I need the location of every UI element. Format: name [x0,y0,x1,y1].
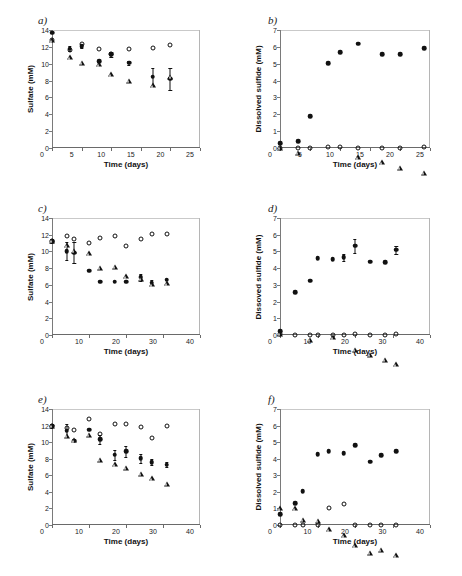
data-point-open-circle [87,240,92,245]
data-point-filled [341,255,346,260]
plot-frame-top-e [52,409,200,410]
data-point-open-circle [326,145,331,150]
plot-frame-right-c [199,218,200,335]
data-point-open-triangle [352,543,358,548]
x-tick-label-e-10: 10 [69,528,89,535]
data-point-open-circle [293,522,298,527]
y-tick-label-a-8: 8 [45,77,49,84]
y-tick-label-e-2: 2 [45,505,49,512]
x-tick-label-c-20: 20 [106,338,126,345]
y-axis-title-f: Dissolved sulfide (mM) [254,380,263,467]
x-tick-e-30 [163,525,164,528]
y-tick-label-a-6: 6 [45,94,49,101]
y-tick-b-4 [277,81,280,82]
data-point-open-triangle [367,352,373,357]
data-point-open-triangle [64,433,70,438]
error-bar-cap [124,446,127,447]
y-tick-a-12 [49,47,52,48]
y-tick-label-d-3: 3 [273,281,277,288]
data-point-open-circle [368,522,373,527]
data-point-open-circle [64,425,69,430]
data-point-open-triangle [382,357,388,362]
y-tick-e-8 [49,459,52,460]
data-point-open-circle [112,233,117,238]
error-bar-cap [72,263,75,264]
error-bar-cap [342,261,345,262]
error-bar-cap [98,444,101,445]
x-tick-c-10 [89,335,90,338]
data-point-open-triangle [352,347,358,352]
data-point-open-triangle [112,264,118,269]
y-tick-d-1 [277,318,280,319]
y-axis-title-c: Sulfate (mM) [26,229,35,277]
panel-e: e)02468101214010203040Time (days)Sulfate… [0,383,231,573]
x-tick-label-a-15: 15 [121,151,141,158]
y-tick-label-f-2: 2 [273,488,277,495]
x-tick-label-f-40: 40 [410,528,430,535]
data-point-open-triangle [307,337,313,342]
data-point-filled [139,456,144,461]
y-tick-a-2 [49,131,52,132]
y-tick-e-6 [49,475,52,476]
data-point-filled [422,46,427,51]
x-tick-b-15 [370,148,371,151]
error-bar-cap [124,457,127,458]
error-bar-cap [150,465,153,466]
x-tick-label-a-0: 0 [32,151,52,158]
data-point-filled [315,256,320,261]
x-axis-title-b: Time (days) [280,160,430,169]
y-axis-title-b: Dissolved sulfide (mM) [254,2,263,89]
y-axis-title-e: Sulfate (mM) [26,419,35,467]
data-point-open-circle [398,145,403,150]
data-point-filled [300,489,305,494]
y-tick-d-6 [277,235,280,236]
x-tick-label-a-20: 20 [150,151,170,158]
x-tick-a-15 [141,148,142,151]
y-tick-e-14 [49,409,52,410]
plot-area-d: 01234567010203040Time (days)Dissoved sul… [280,218,430,335]
y-tick-label-d-6: 6 [273,231,277,238]
data-point-open-triangle [330,335,336,340]
y-tick-c-14 [49,218,52,219]
y-tick-c-8 [49,268,52,269]
data-point-filled [353,443,358,448]
data-point-open-triangle [49,238,55,243]
data-point-open-circle [394,331,399,336]
x-tick-label-c-40: 40 [180,338,200,345]
data-point-open-triangle [149,476,155,481]
data-point-open-triangle [300,517,306,522]
x-tick-label-b-25: 25 [410,151,430,158]
y-axis-line-b [280,30,281,148]
plot-area-a: 024681012140510152025Time (days)Sulfate … [52,30,200,148]
x-tick-label-d-0: 0 [260,338,280,345]
data-point-open-circle [124,421,129,426]
data-point-open-triangle [49,423,55,428]
data-point-open-triangle [164,481,170,486]
data-point-open-triangle [164,281,170,286]
x-tick-e-40 [200,525,201,528]
panel-b: b)012345670510152025Time (days)Dissolved… [228,0,459,192]
panel-label-c: c) [38,202,47,214]
error-bar-cap [109,57,112,58]
y-axis-line-a [52,30,53,148]
y-tick-label-d-2: 2 [273,298,277,305]
y-tick-label-d-7: 7 [273,215,277,222]
data-point-open-triangle [71,248,77,253]
data-point-open-circle [98,236,103,241]
data-point-open-triangle [64,243,70,248]
y-tick-label-c-4: 4 [45,298,49,305]
data-point-filled [164,462,169,467]
x-tick-label-d-20: 20 [335,338,355,345]
y-tick-b-5 [277,64,280,65]
panel-label-f: f) [268,393,275,405]
y-tick-label-c-6: 6 [45,281,49,288]
data-point-filled [113,452,118,457]
data-point-open-triangle [123,274,129,279]
y-tick-label-a-2: 2 [45,128,49,135]
data-point-filled [293,290,298,295]
data-point-open-circle [72,236,77,241]
data-point-open-triangle [379,160,385,165]
x-tick-e-0 [52,525,53,528]
error-bar-cap [395,246,398,247]
x-axis-line-a [52,147,200,148]
